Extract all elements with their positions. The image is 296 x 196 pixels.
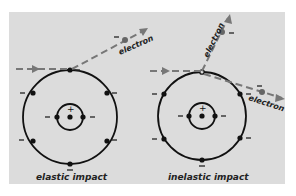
outer-electron xyxy=(104,90,109,95)
outer-electron xyxy=(237,135,242,140)
inner-electron xyxy=(80,114,85,119)
outer-electron xyxy=(30,90,35,95)
outer-electron xyxy=(161,136,166,141)
inner-electron xyxy=(54,114,59,119)
nucleus xyxy=(67,114,72,119)
elastic-caption: elastic impact xyxy=(36,172,108,182)
free-electron xyxy=(259,89,265,95)
inelastic-caption: inelastic impact xyxy=(168,172,249,182)
outer-electron xyxy=(199,157,204,162)
inner-electron xyxy=(186,113,191,118)
outer-electron xyxy=(237,91,242,96)
free-electron xyxy=(122,37,128,43)
outer-electron xyxy=(161,91,166,96)
outer-electron xyxy=(30,138,35,143)
nucleus-plus: + xyxy=(67,104,75,114)
nucleus-plus: + xyxy=(199,103,207,113)
outer-electron xyxy=(104,138,109,143)
outer-electron xyxy=(67,161,72,166)
inner-electron xyxy=(212,113,217,118)
nucleus xyxy=(199,113,204,118)
impact-diagram: + electron elastic impact + xyxy=(0,0,296,196)
